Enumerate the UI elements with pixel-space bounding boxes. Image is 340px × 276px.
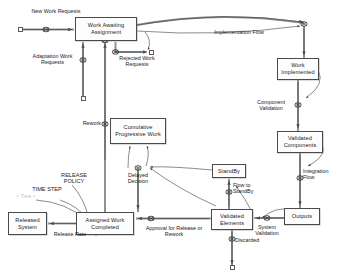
flow-label-adaptation-work-requests: Adaptation Work Requests (25, 53, 80, 66)
flow-label-rework: Rework (73, 120, 101, 126)
flow-label-flow-to-standby: Flow to StandBy (233, 182, 265, 195)
source-cloud-adaptation-work-requests (81, 96, 86, 101)
stock-work-awaiting-assignment[interactable]: Work Awaiting Assignment (75, 17, 137, 41)
stock-outputs[interactable]: Outputs (284, 208, 320, 225)
flow-label-new-work-requests: New Work Requests (31, 8, 81, 14)
stock-cumulative-progressive-work[interactable]: Cumulative Progressive Work (110, 118, 166, 144)
flow-label-approval-release-rework: Approval for Release or Rework (139, 225, 209, 238)
diagram-canvas: Work Awaiting Assignment Cumulative Prog… (0, 0, 340, 276)
stock-released-system[interactable]: Released System (8, 212, 47, 235)
stock-label: StandBy (218, 168, 240, 175)
stock-label: Work Implemented (279, 62, 317, 76)
aux-label-faint-note: < Time > (10, 194, 42, 201)
stock-label: Validated Components (279, 135, 321, 149)
stock-standby[interactable]: StandBy (212, 164, 246, 178)
stock-label: Work Awaiting Assignment (77, 22, 135, 36)
flow-label-rejected-work-requests: Rejected Work Requests (113, 55, 161, 68)
flow-label-integration-flow: Integration Flow (303, 168, 339, 181)
stock-work-implemented[interactable]: Work Implemented (277, 58, 319, 80)
flow-label-discarded: Discarded (235, 237, 267, 243)
stock-label: Cumulative Progressive Work (112, 124, 164, 138)
aux-label-time-step: TIME STEP (24, 186, 70, 193)
flow-label-delayed-decision: Delayed Decision (119, 172, 157, 185)
stock-label: Outputs (292, 213, 312, 220)
sink-cloud-rejected-work-requests (149, 50, 154, 55)
sink-cloud-discarded (230, 265, 235, 270)
flow-label-system-validation: System Validation (246, 224, 288, 237)
aux-label-release-policy: RELEASE POLICY (52, 172, 96, 184)
flow-label-release-rate: Release Rate (50, 231, 90, 237)
source-cloud-new-work-requests (18, 27, 23, 32)
stock-label: Assigned Work Completed (78, 217, 132, 231)
flow-label-implementation-flow: Implementation Flow (208, 29, 270, 35)
stock-validated-components[interactable]: Validated Components (277, 131, 323, 153)
flow-label-component-validation: Component Validation (249, 99, 293, 112)
stock-label: Released System (10, 217, 45, 231)
